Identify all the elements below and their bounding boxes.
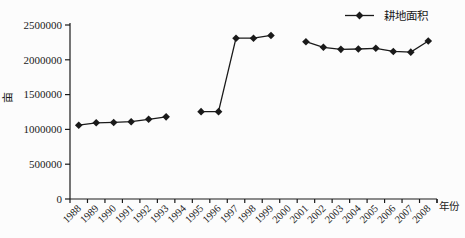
x-tick-label: 1999: [253, 203, 276, 226]
data-point-marker: [407, 48, 415, 56]
data-point-marker: [197, 108, 205, 116]
x-tick-label: 1994: [165, 202, 188, 225]
x-tick-label: 2001: [288, 203, 311, 226]
x-tick-label: 1995: [183, 203, 206, 226]
data-point-marker: [75, 121, 83, 129]
data-point-marker: [250, 34, 258, 42]
y-axis: 05000001000000150000020000002500000: [24, 19, 71, 205]
data-point-marker: [337, 46, 345, 54]
x-tick-label: 2004: [340, 202, 363, 225]
x-tick-label: 1988: [61, 203, 84, 226]
y-tick-label: 0: [57, 193, 63, 205]
y-tick-label: 2000000: [24, 54, 63, 66]
data-point-marker: [162, 113, 170, 121]
data-point-marker: [232, 34, 240, 42]
x-tick-label: 1991: [113, 203, 136, 226]
line-chart: 05000001000000150000020000002500000 1988…: [0, 0, 465, 238]
data-point-marker: [127, 118, 135, 126]
x-tick-label: 1993: [148, 203, 171, 226]
x-tick-label: 1989: [78, 203, 101, 226]
x-tick-label: 2005: [358, 203, 381, 226]
y-tick-label: 500000: [29, 158, 63, 170]
data-series: [75, 32, 432, 129]
legend-label: 耕地面积: [384, 9, 429, 22]
series-line: [79, 117, 166, 125]
legend: 耕地面积: [345, 9, 429, 22]
x-tick-label: 1990: [95, 203, 118, 226]
x-tick-label: 2007: [393, 203, 416, 226]
x-tick-label: 2008: [410, 203, 433, 226]
x-axis: 1988198919901991199219931994199519961997…: [61, 199, 437, 225]
x-tick-label: 2006: [375, 203, 398, 226]
y-tick-label: 1500000: [24, 88, 63, 100]
data-point-marker: [355, 45, 363, 53]
x-tick-label: 2003: [323, 203, 346, 226]
data-point-marker: [302, 38, 310, 46]
x-tick-label: 2002: [305, 203, 328, 226]
y-tick-label: 2500000: [24, 19, 63, 31]
data-point-marker: [145, 116, 153, 124]
x-axis-title: 年份: [439, 200, 460, 212]
data-point-marker: [215, 108, 223, 116]
series-line: [201, 35, 271, 111]
data-point-marker: [390, 48, 398, 56]
data-point-marker: [92, 119, 100, 127]
y-tick-label: 1000000: [24, 123, 63, 135]
x-tick-label: 2000: [270, 203, 293, 226]
y-axis-title: 亩: [1, 92, 14, 103]
data-point-marker: [372, 45, 380, 53]
x-tick-label: 1996: [200, 203, 223, 226]
data-point-marker: [110, 119, 118, 127]
x-tick-label: 1997: [218, 203, 241, 226]
x-tick-label: 1998: [235, 203, 258, 226]
x-tick-label: 1992: [130, 203, 153, 226]
legend-marker-diamond-icon: [356, 12, 364, 20]
data-point-marker: [424, 37, 432, 45]
data-point-marker: [320, 43, 328, 51]
data-point-marker: [267, 32, 275, 40]
chart-container: 05000001000000150000020000002500000 1988…: [0, 0, 465, 238]
